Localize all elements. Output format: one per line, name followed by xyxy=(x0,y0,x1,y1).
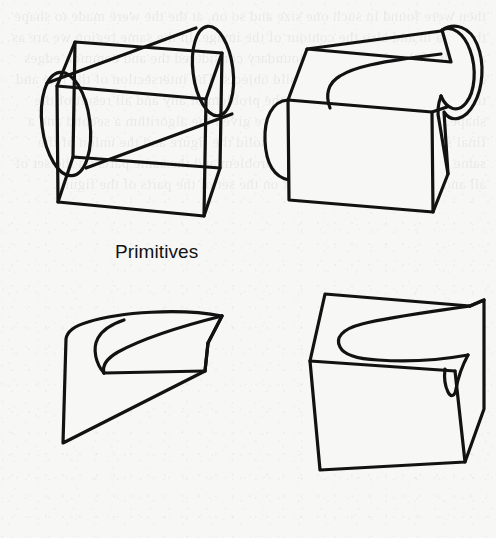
difference-solid-body xyxy=(310,294,484,470)
primitives-box-wireframe xyxy=(57,42,222,216)
union-solid-body xyxy=(265,26,482,212)
box-edge-front-right xyxy=(204,99,206,216)
box-bottom-face xyxy=(58,157,220,216)
intersection-illustration xyxy=(0,269,248,469)
box-edge-back-right xyxy=(220,53,222,168)
box-edge-back-left xyxy=(73,42,75,157)
union-cylinder-top-silhouette xyxy=(307,31,441,49)
union-box-right-vertical-edge xyxy=(432,112,433,212)
box-edge-front-left xyxy=(57,86,58,202)
panel-primitives: Primitives xyxy=(0,0,248,269)
intersection-outer-silhouette xyxy=(63,312,222,443)
intersection-solid-body xyxy=(63,312,222,443)
panel-intersection: Intersection xyxy=(0,269,248,538)
primitives-illustration xyxy=(0,0,248,235)
union-cylinder-left-stub xyxy=(265,100,289,180)
intersection-bottom-crease xyxy=(104,371,205,373)
union-illustration xyxy=(248,0,496,235)
panel-difference: Difference xyxy=(248,269,496,538)
csg-figure-page: then were found in such one size and so … xyxy=(0,0,496,538)
difference-illustration xyxy=(248,269,496,469)
panel-union: Union xyxy=(248,0,496,269)
cylinder-right-cap-ellipse xyxy=(188,24,239,118)
union-outer-silhouette xyxy=(288,26,482,212)
panel-label-primitives: Primitives xyxy=(115,241,198,263)
